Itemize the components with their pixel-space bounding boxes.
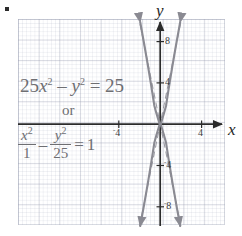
y-axis-label: y — [156, 2, 164, 19]
coordinate-axes — [18, 22, 222, 226]
graph-curves-svg — [0, 0, 242, 236]
tick-value-y-neg4: 4 — [166, 159, 171, 170]
eq1-coefficient: 25 — [20, 75, 39, 96]
equation-normalized-form: x2 1 – y2 25 = 1 — [18, 128, 95, 162]
eq2-right-side: 1 — [87, 136, 96, 153]
eq2-y-var: y — [55, 127, 62, 143]
eq2-x-numerator: x2 — [18, 128, 36, 143]
tick-label-y-neg8: -8 — [164, 201, 171, 211]
equation-connector-or: or — [62, 103, 75, 118]
eq1-equals-sign: = — [90, 75, 101, 96]
eq2-x-denominator: 1 — [20, 146, 34, 161]
hyperbola-figure: y x -4 4 8 4 -4 -8 25x2 – y2 = 25 or x2 … — [0, 0, 242, 236]
eq2-fraction-x: x2 1 — [18, 128, 36, 162]
tick-label-y-neg4: -4 — [164, 160, 171, 170]
equation-standard-form: 25x2 – y2 = 25 — [20, 76, 124, 95]
eq1-y-exponent: 2 — [80, 76, 85, 87]
tick-value-x-neg4: 4 — [115, 127, 120, 138]
tick-label-x-pos4: 4 — [198, 128, 203, 138]
tick-label-x-neg4: -4 — [113, 128, 120, 138]
eq1-minus-operator: – — [57, 75, 67, 96]
eq2-fraction-y: y2 25 — [50, 128, 71, 162]
eq2-x-var: x — [21, 127, 28, 143]
eq2-equals-sign: = — [74, 136, 84, 153]
eq1-x-exponent: 2 — [47, 76, 52, 87]
x-axis-label: x — [228, 121, 236, 138]
tick-label-y-pos4: 4 — [165, 77, 170, 87]
eq2-y-numerator: y2 — [52, 128, 70, 143]
eq2-y-denominator: 25 — [50, 146, 71, 161]
eq2-y-exponent: 2 — [62, 125, 67, 136]
tick-label-y-pos8: 8 — [165, 36, 170, 46]
tick-value-y-neg8: 8 — [166, 200, 171, 211]
eq2-minus-operator: – — [39, 136, 48, 153]
eq1-y-var: y — [71, 75, 79, 96]
eq2-x-exponent: 2 — [28, 125, 33, 136]
eq1-right-side: 25 — [105, 75, 124, 96]
